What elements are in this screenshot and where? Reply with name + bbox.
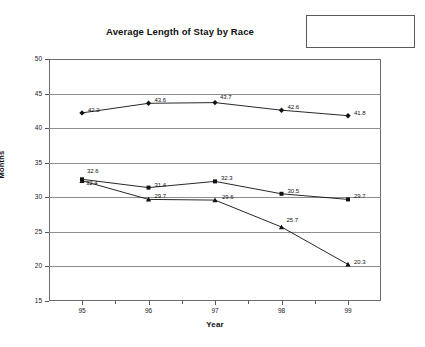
- data-point-label: 25.7: [287, 217, 299, 223]
- data-point-marker: [279, 108, 284, 113]
- data-point-marker: [146, 101, 151, 106]
- data-point-label: 20.3: [354, 259, 366, 265]
- data-point-label: 43.7: [220, 94, 232, 100]
- data-point-marker: [147, 186, 151, 190]
- data-point-label: 42.2: [88, 107, 100, 113]
- data-point-label: 31.4: [155, 182, 167, 188]
- data-point-label: 42.6: [288, 104, 300, 110]
- series-layer: [0, 0, 425, 347]
- chart-figure: Average Length of Stay by Race Black Whi…: [0, 0, 425, 347]
- data-point-label: 30.5: [288, 188, 300, 194]
- data-point-label: 29.7: [155, 193, 167, 199]
- data-point-label: 41.8: [354, 110, 366, 116]
- data-point-marker: [212, 100, 217, 105]
- data-point-marker: [345, 113, 350, 118]
- data-point-marker: [213, 179, 217, 183]
- data-point-marker: [345, 262, 350, 267]
- series-line-other: [82, 181, 348, 265]
- data-point-label: 32.6: [87, 168, 99, 174]
- data-point-marker: [346, 197, 350, 201]
- data-point-label: 29.7: [354, 193, 366, 199]
- data-point-marker: [279, 224, 284, 229]
- data-point-label: 32.3: [221, 175, 233, 181]
- data-point-label: 43.6: [155, 97, 167, 103]
- data-point-marker: [280, 192, 284, 196]
- data-point-label: 29.6: [222, 194, 234, 200]
- data-point-label: 32.4: [86, 180, 98, 186]
- data-point-marker: [79, 110, 84, 115]
